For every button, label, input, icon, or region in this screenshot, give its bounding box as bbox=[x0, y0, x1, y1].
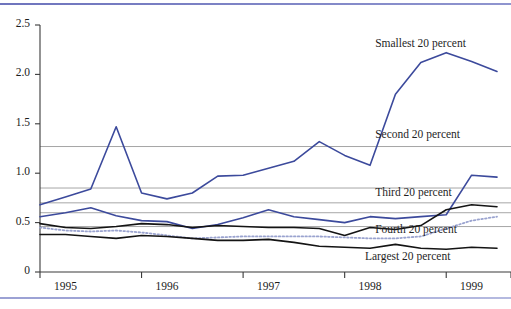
y-tick-label-2.5: 2.5 bbox=[0, 17, 30, 29]
series-group bbox=[40, 53, 497, 250]
x-tick-label-1996: 1996 bbox=[137, 280, 197, 292]
figure-container: 00.51.01.52.02.5 19951996199719981999 Sm… bbox=[0, 0, 511, 309]
y-tick-label-2.0: 2.0 bbox=[0, 66, 30, 78]
x-tick-label-1998: 1998 bbox=[340, 280, 400, 292]
x-tick-label-1995: 1995 bbox=[35, 280, 95, 292]
y-tick-label-1.5: 1.5 bbox=[0, 116, 30, 128]
series-label-largest-20-percent: Largest 20 percent bbox=[365, 250, 450, 262]
x-tick-label-1997: 1997 bbox=[239, 280, 299, 292]
series-label-third-20-percent: Third 20 percent bbox=[375, 186, 452, 198]
y-tick-label-0.5: 0.5 bbox=[0, 215, 30, 227]
series-label-second-20-percent: Second 20 percent bbox=[375, 128, 460, 140]
x-tick-label-1999: 1999 bbox=[442, 280, 502, 292]
y-tick-label-1.0: 1.0 bbox=[0, 165, 30, 177]
y-tick-label-0: 0 bbox=[0, 264, 30, 276]
series-label-smallest-20-percent: Smallest 20 percent bbox=[375, 37, 466, 49]
series-label-fourth-20-percent: Fourth 20 percent bbox=[375, 223, 457, 235]
